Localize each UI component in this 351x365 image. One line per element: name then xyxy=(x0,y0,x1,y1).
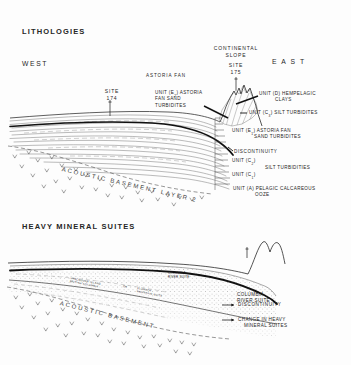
or-conjunction-annotation: OR xyxy=(123,285,128,289)
silt-turbidites-annotation: SILT TURBIDITIES xyxy=(265,165,310,171)
columbia-river-suite-mid-annotation: COLUMBIARIVER SUITE xyxy=(168,272,190,280)
geological-cross-section-figure: LITHOLOGIES WEST E A S T CONTINENTALSLOP… xyxy=(0,0,351,365)
discontinuity-annotation: DISCONTINUITY xyxy=(234,149,278,155)
panel-title-heavy-mineral-suites: HEAVY MINERAL SUITES xyxy=(22,222,135,231)
unit-c2-annotation: UNIT (C2) xyxy=(232,158,256,164)
unit-a-annotation: UNIT (A) PELAGIC CALCAREOUSOOZE xyxy=(233,186,315,199)
change-in-heavy-mineral-suites-annotation: CHANGE IN HEAVYMINERAL SUITES xyxy=(238,317,287,330)
heavy-mineral-suites-drawing xyxy=(0,240,351,365)
unit-c3-annotation: UNIT (C3) SILT TURBIDITES xyxy=(249,110,318,116)
unit-e1-annotation: UNIT (E1) ASTORIA FANSAND TURBIDITES xyxy=(232,128,301,141)
unit-e2-annotation: UNIT (E2) ASTORIAFAN SANDTURBIDITES xyxy=(155,90,202,109)
unit-d-annotation: UNIT (D) HEMPELAGICCLAYS xyxy=(259,91,316,104)
discontinuity-annotation-2: DISCONTINUITY xyxy=(238,302,282,308)
unit-c1-annotation: UNIT (C1) xyxy=(232,172,256,178)
